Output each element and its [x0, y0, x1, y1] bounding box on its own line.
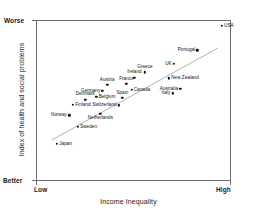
x-axis-title: Income Inequality	[0, 198, 257, 205]
data-point-label: Finland	[75, 103, 90, 108]
chart-figure: Worse Better Low High Income Inequality …	[0, 0, 257, 214]
data-point-label: Portugal	[178, 48, 196, 53]
data-point-label: Belgium	[99, 94, 116, 99]
x-axis-tick-low	[36, 181, 37, 185]
data-point-label: Switzerland	[92, 103, 116, 108]
x-axis-tick-high	[230, 181, 231, 185]
data-point-label: Italy	[162, 91, 171, 96]
data-point-label: Ireland	[127, 71, 141, 76]
data-point-label: Canada	[134, 88, 150, 93]
data-point-label: Norway	[51, 113, 67, 118]
data-point-label: New Zealand	[171, 76, 199, 81]
x-axis-label-low: Low	[34, 186, 47, 193]
data-point-label: Denmark	[76, 93, 95, 98]
data-point-label: Sweden	[80, 124, 97, 129]
data-point-label: Netherlands	[88, 116, 113, 121]
data-point-label: Spain	[116, 91, 128, 96]
x-axis-label-high: High	[216, 186, 231, 193]
plot-area	[36, 20, 231, 181]
data-point-label: USA	[224, 24, 234, 29]
y-axis-tick-worse	[32, 20, 36, 21]
data-point-label: France	[119, 77, 134, 82]
data-point-label: UK	[165, 61, 171, 66]
data-point-label: Austria	[100, 78, 115, 83]
data-point-label: Japan	[59, 142, 72, 147]
y-axis-title: Index of health and social problems	[18, 20, 25, 180]
